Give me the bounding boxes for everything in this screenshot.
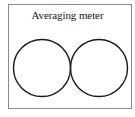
- circles-figure: [0, 0, 135, 117]
- right-circle: [71, 40, 128, 97]
- left-circle: [14, 40, 71, 97]
